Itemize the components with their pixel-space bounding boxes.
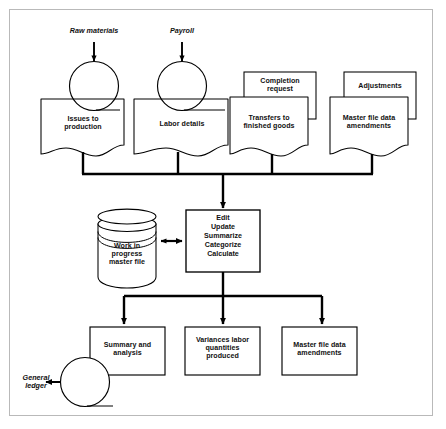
node-variances-labor-quantities-produced[interactable] [185,327,260,375]
flowchart-canvas [0,0,446,429]
node-master-file-data-amendments-input[interactable] [330,97,408,156]
node-master-file-data-amendments-output[interactable] [282,327,357,375]
node-work-in-progress-master-file[interactable] [98,209,156,288]
node-transfers-to-finished-goods[interactable] [230,97,308,156]
node-central-process[interactable] [186,210,260,272]
bus-inputs-to-process [82,152,373,208]
flowchart-page: Raw materials Payroll Issues to producti… [0,0,446,429]
node-labor-details[interactable] [134,99,228,156]
